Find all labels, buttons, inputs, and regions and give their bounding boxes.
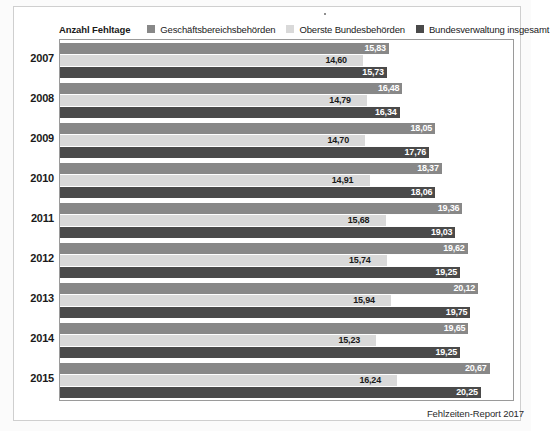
bar-2015-series-2[interactable]: 16,24 bbox=[60, 375, 397, 386]
bar-2011-series-2[interactable]: 15,68 bbox=[60, 215, 386, 226]
bar-2009-series-1[interactable]: 18,05 bbox=[60, 123, 435, 134]
bar-row: 20,67 bbox=[60, 363, 513, 374]
bar-row: 15,74 bbox=[60, 255, 513, 266]
bar-group-2014: 19,6515,2319,25 bbox=[60, 320, 513, 360]
bar-value-label: 19,62 bbox=[443, 243, 465, 253]
bar-2007-series-1[interactable]: 15,83 bbox=[60, 43, 389, 54]
y-axis-tick-2015: 2015 bbox=[14, 372, 54, 384]
bar-2015-series-3[interactable]: 20,25 bbox=[60, 387, 481, 398]
bar-2010-series-1[interactable]: 18,37 bbox=[60, 163, 442, 174]
bar-2014-series-1[interactable]: 19,65 bbox=[60, 323, 468, 334]
bar-row: 16,34 bbox=[60, 107, 513, 118]
bar-2009-series-3[interactable]: 17,76 bbox=[60, 147, 429, 158]
bar-value-label: 15,23 bbox=[338, 335, 360, 345]
bar-row: 15,68 bbox=[60, 215, 513, 226]
bar-group-2011: 19,3615,6819,03 bbox=[60, 200, 513, 240]
bar-row: 19,25 bbox=[60, 347, 513, 358]
y-axis-tick-2011: 2011 bbox=[14, 212, 54, 224]
legend-swatch-oberste-bundesbehoerden bbox=[286, 25, 294, 33]
legend-title: Anzahl Fehltage bbox=[59, 24, 130, 35]
bar-value-label: 16,48 bbox=[378, 83, 400, 93]
bar-2010-series-2[interactable]: 14,91 bbox=[60, 175, 370, 186]
bar-2012-series-1[interactable]: 19,62 bbox=[60, 243, 468, 254]
y-axis-tick-2008: 2008 bbox=[14, 92, 54, 104]
bar-row: 19,36 bbox=[60, 203, 513, 214]
bar-2012-series-2[interactable]: 15,74 bbox=[60, 255, 387, 266]
bar-row: 18,37 bbox=[60, 163, 513, 174]
bar-row: 14,60 bbox=[60, 55, 513, 66]
bar-value-label: 19,65 bbox=[444, 323, 466, 333]
bar-2013-series-1[interactable]: 20,12 bbox=[60, 283, 478, 294]
legend-entry-oberste-bundesbehoerden: Oberste Bundesbehörden bbox=[286, 24, 405, 35]
legend-swatch-geschaeftsbereichsbehoerden bbox=[147, 25, 155, 33]
bar-row: 20,25 bbox=[60, 387, 513, 398]
bar-2011-series-3[interactable]: 19,03 bbox=[60, 227, 455, 238]
bar-value-label: 18,06 bbox=[411, 187, 433, 197]
bar-group-2007: 15,8314,6015,73 bbox=[60, 40, 513, 80]
bar-2011-series-1[interactable]: 19,36 bbox=[60, 203, 462, 214]
bar-row: 14,79 bbox=[60, 95, 513, 106]
bar-row: 15,73 bbox=[60, 67, 513, 78]
y-axis-tick-2007: 2007 bbox=[14, 52, 54, 64]
bar-2008-series-3[interactable]: 16,34 bbox=[60, 107, 400, 118]
bar-value-label: 20,67 bbox=[465, 363, 487, 373]
bar-group-2010: 18,3714,9118,06 bbox=[60, 160, 513, 200]
bar-row: 16,48 bbox=[60, 83, 513, 94]
bar-row: 20,12 bbox=[60, 283, 513, 294]
bar-2008-series-1[interactable]: 16,48 bbox=[60, 83, 402, 94]
bar-row: 15,94 bbox=[60, 295, 513, 306]
bar-row: 15,83 bbox=[60, 43, 513, 54]
y-axis-tick-2014: 2014 bbox=[14, 332, 54, 344]
bar-2014-series-2[interactable]: 15,23 bbox=[60, 335, 376, 346]
bar-2009-series-2[interactable]: 14,70 bbox=[60, 135, 365, 146]
bar-row: 14,91 bbox=[60, 175, 513, 186]
bar-value-label: 17,76 bbox=[405, 147, 427, 157]
bar-value-label: 15,68 bbox=[348, 215, 370, 225]
bar-2015-series-1[interactable]: 20,67 bbox=[60, 363, 490, 374]
bar-row: 19,62 bbox=[60, 243, 513, 254]
bar-2012-series-3[interactable]: 19,25 bbox=[60, 267, 460, 278]
bar-row: 14,70 bbox=[60, 135, 513, 146]
bar-2013-series-2[interactable]: 15,94 bbox=[60, 295, 391, 306]
bar-2013-series-3[interactable]: 19,75 bbox=[60, 307, 470, 318]
bar-2010-series-3[interactable]: 18,06 bbox=[60, 187, 435, 198]
bar-value-label: 19,03 bbox=[431, 227, 453, 237]
legend-label-geschaeftsbereichsbehoerden: Geschäftsbereichsbehörden bbox=[160, 24, 275, 35]
legend-entry-bundesverwaltung-insgesamt: Bundesverwaltung insgesamt bbox=[416, 24, 549, 35]
legend-label-bundesverwaltung-insgesamt: Bundesverwaltung insgesamt bbox=[429, 24, 549, 35]
bar-value-label: 15,73 bbox=[362, 67, 384, 77]
bar-value-label: 18,37 bbox=[417, 163, 439, 173]
bar-value-label: 19,75 bbox=[446, 307, 468, 317]
bar-group-2015: 20,6716,2420,25 bbox=[60, 360, 513, 400]
plot-area: 15,8314,6015,7316,4814,7916,3418,0514,70… bbox=[59, 39, 514, 401]
bar-value-label: 14,91 bbox=[332, 175, 354, 185]
bar-row: 19,65 bbox=[60, 323, 513, 334]
bar-value-label: 14,60 bbox=[325, 55, 347, 65]
bar-value-label: 19,25 bbox=[435, 347, 457, 357]
bar-2008-series-2[interactable]: 14,79 bbox=[60, 95, 367, 106]
bar-row: 17,76 bbox=[60, 147, 513, 158]
bar-value-label: 20,12 bbox=[454, 283, 476, 293]
bar-group-2008: 16,4814,7916,34 bbox=[60, 80, 513, 120]
bar-value-label: 15,94 bbox=[353, 295, 375, 305]
y-axis-tick-2012: 2012 bbox=[14, 252, 54, 264]
bar-value-label: 14,79 bbox=[329, 95, 351, 105]
bar-2007-series-3[interactable]: 15,73 bbox=[60, 67, 387, 78]
bar-value-label: 15,83 bbox=[364, 43, 386, 53]
bar-value-label: 16,34 bbox=[375, 107, 397, 117]
bar-value-label: 20,25 bbox=[456, 387, 478, 397]
bar-value-label: 19,25 bbox=[435, 267, 457, 277]
bar-row: 16,24 bbox=[60, 375, 513, 386]
chart-legend: Anzahl Fehltage Geschäftsbereichsbehörde… bbox=[59, 22, 554, 36]
bar-row: 18,05 bbox=[60, 123, 513, 134]
y-axis-tick-2013: 2013 bbox=[14, 292, 54, 304]
bar-value-label: 14,70 bbox=[327, 135, 349, 145]
bar-group-2009: 18,0514,7017,76 bbox=[60, 120, 513, 160]
bar-row: 18,06 bbox=[60, 187, 513, 198]
bar-2014-series-3[interactable]: 19,25 bbox=[60, 347, 460, 358]
figure-frame: Anzahl Fehltage Geschäftsbereichsbehörde… bbox=[13, 6, 521, 421]
bar-row: 15,23 bbox=[60, 335, 513, 346]
bar-value-label: 19,36 bbox=[438, 203, 460, 213]
bar-2007-series-2[interactable]: 14,60 bbox=[60, 55, 363, 66]
